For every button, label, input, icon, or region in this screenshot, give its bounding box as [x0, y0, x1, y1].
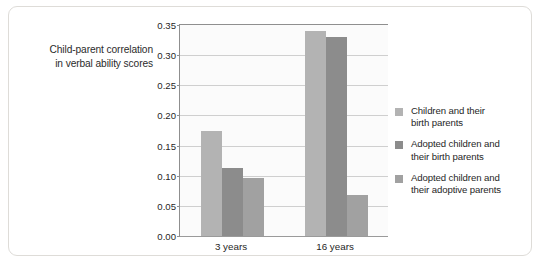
y-tick-label: 0.30 — [157, 50, 176, 61]
y-tick-label: 0.35 — [157, 20, 176, 31]
y-tick-label: 0.15 — [157, 140, 176, 151]
bars-layer — [180, 25, 388, 236]
legend-item: Adopted children andtheir birth parents — [395, 138, 525, 162]
legend-label-line1: Adopted children and — [411, 172, 525, 184]
y-tick-label: 0.00 — [157, 231, 176, 242]
y-tick-label: 0.10 — [157, 170, 176, 181]
bar — [243, 178, 264, 236]
bar — [201, 131, 222, 237]
legend-item: Adopted children andtheir adoptive paren… — [395, 172, 525, 196]
legend-item: Children and theirbirth parents — [395, 105, 525, 129]
bar — [305, 31, 326, 236]
legend-swatch — [395, 175, 403, 183]
x-axis-line — [180, 236, 388, 237]
bar — [222, 168, 243, 236]
bar — [326, 37, 347, 236]
legend-label-line1: Adopted children and — [411, 138, 525, 150]
plot-area: 0.000.050.100.150.200.250.300.35 — [179, 24, 388, 236]
bar — [347, 195, 368, 236]
y-axis-title-line2: in verbal ability scores — [13, 57, 153, 71]
legend-swatch — [395, 108, 403, 116]
x-category-label: 16 years — [316, 241, 354, 252]
figure-card: Child-parent correlation in verbal abili… — [8, 6, 532, 256]
y-tick-label: 0.20 — [157, 110, 176, 121]
y-axis-title-line1: Child-parent correlation — [13, 43, 153, 57]
y-axis-title: Child-parent correlation in verbal abili… — [13, 43, 153, 70]
legend-label-line2: their birth parents — [411, 151, 525, 163]
legend-label: Children and theirbirth parents — [411, 105, 525, 129]
legend-swatch — [395, 141, 403, 149]
legend-label-line2: their adoptive parents — [411, 184, 525, 196]
x-category-label: 3 years — [215, 241, 247, 252]
legend-label: Adopted children andtheir adoptive paren… — [411, 172, 525, 196]
legend: Children and theirbirth parentsAdopted c… — [395, 105, 525, 205]
y-tick-label: 0.25 — [157, 80, 176, 91]
legend-label-line2: birth parents — [411, 117, 525, 129]
legend-label-line1: Children and their — [411, 105, 525, 117]
legend-label: Adopted children andtheir birth parents — [411, 138, 525, 162]
y-tick-label: 0.05 — [157, 200, 176, 211]
